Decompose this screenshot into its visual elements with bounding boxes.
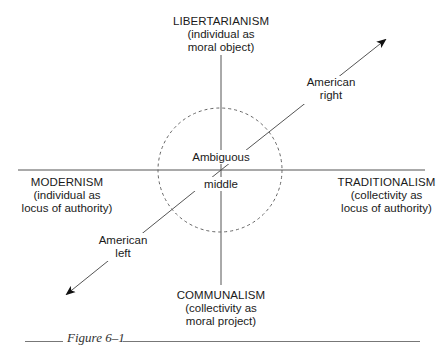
- modernism-label: MODERNISM (individual as locus of author…: [12, 176, 122, 215]
- communalism-label: COMMUNALISM (collectivity as moral proje…: [161, 289, 281, 328]
- libertarianism-label: LIBERTARIANISM (individual as moral obje…: [161, 15, 281, 54]
- ambiguous-label: Ambiguous: [171, 151, 271, 164]
- figure-label: Figure 6–1: [67, 330, 125, 346]
- american-left-label: American left: [88, 234, 158, 260]
- libertarianism-heading: LIBERTARIANISM: [161, 15, 281, 28]
- traditionalism-heading: TRADITIONALISM: [330, 176, 443, 189]
- figure-caption: Figure 6–1: [0, 330, 443, 346]
- caption-rule-left: [25, 341, 63, 342]
- middle-label: middle: [171, 178, 271, 191]
- modernism-heading: MODERNISM: [12, 176, 122, 189]
- communalism-heading: COMMUNALISM: [161, 289, 281, 302]
- american-right-label: American right: [296, 76, 366, 102]
- traditionalism-label: TRADITIONALISM (collectivity as locus of…: [330, 176, 443, 215]
- caption-rule-right: [123, 341, 420, 342]
